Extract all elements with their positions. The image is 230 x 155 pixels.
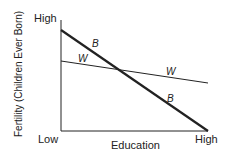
series-b-line — [61, 30, 208, 131]
series-b-label-1: B — [92, 38, 99, 49]
x-high-label: High — [195, 133, 218, 145]
y-axis-title: Fertility (Children Ever Born) — [13, 11, 24, 137]
fertility-education-chart: High Low High Education Fertility (Child… — [0, 0, 230, 155]
x-low-label: Low — [38, 133, 58, 145]
series-b-label-2: B — [167, 93, 174, 104]
series-w-label-1: W — [78, 53, 89, 64]
x-axis-title: Education — [111, 139, 160, 151]
series-w-label-2: W — [166, 66, 177, 77]
y-high-label: High — [34, 12, 57, 24]
